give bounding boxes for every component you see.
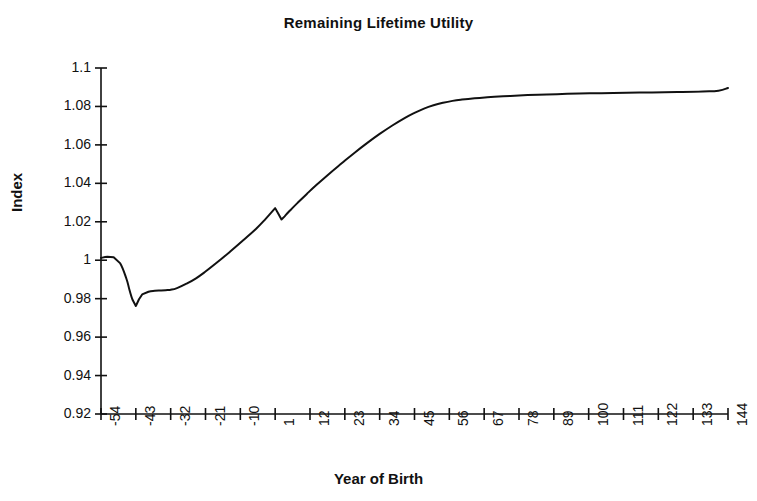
x-tick-label: 23 bbox=[351, 410, 367, 426]
x-tick-label: 1 bbox=[281, 418, 297, 426]
x-tick-label: 111 bbox=[630, 405, 646, 426]
y-tick-label: 1.08 bbox=[31, 97, 91, 113]
x-tick-label: 45 bbox=[421, 410, 437, 426]
y-tick-label: 0.96 bbox=[31, 328, 91, 344]
x-tick-label: 100 bbox=[595, 403, 611, 426]
x-tick-label: 89 bbox=[560, 410, 576, 426]
x-tick-label: -43 bbox=[142, 406, 158, 426]
y-tick-label: 1 bbox=[31, 251, 91, 267]
x-tick-label: -21 bbox=[212, 406, 228, 426]
x-tick-label: -10 bbox=[246, 406, 262, 426]
x-tick-label: 67 bbox=[490, 410, 506, 426]
axis-lines bbox=[101, 68, 728, 414]
y-tick-label: 1.02 bbox=[31, 213, 91, 229]
y-tick-label: 1.06 bbox=[31, 136, 91, 152]
y-tick-label: 0.92 bbox=[31, 405, 91, 421]
x-tick-label: -32 bbox=[177, 406, 193, 426]
y-tick-label: 1.1 bbox=[31, 59, 91, 75]
chart-container: Remaining Lifetime Utility Index Year of… bbox=[0, 0, 757, 501]
y-tick-label: 0.94 bbox=[31, 367, 91, 383]
x-tick-label: 133 bbox=[699, 403, 715, 426]
x-tick-label: -54 bbox=[107, 406, 123, 426]
tick-marks bbox=[95, 68, 728, 420]
x-tick-label: 56 bbox=[455, 410, 471, 426]
x-tick-label: 34 bbox=[386, 410, 402, 426]
data-series-line bbox=[101, 88, 728, 306]
x-tick-label: 122 bbox=[664, 403, 680, 426]
x-tick-label: 12 bbox=[316, 410, 332, 426]
y-tick-label: 1.04 bbox=[31, 174, 91, 190]
x-tick-label: 144 bbox=[734, 403, 750, 426]
x-tick-label: 78 bbox=[525, 410, 541, 426]
y-tick-label: 0.98 bbox=[31, 290, 91, 306]
